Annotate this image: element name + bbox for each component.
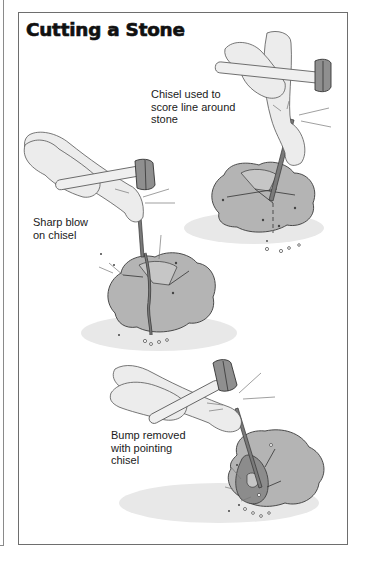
page-margin-rule (3, 0, 4, 546)
caption-line: score line around (151, 101, 235, 114)
caption-sharp-blow: Sharp blow on chisel (33, 216, 88, 241)
illustration-panel: Cutting a Stone .ln { stroke:#333; strok… (18, 12, 348, 545)
caption-bump-removed: Bump removed with pointing chisel (111, 429, 186, 467)
caption-line: chisel (111, 454, 186, 467)
caption-line: stone (151, 113, 235, 126)
figure-sharp-blow (24, 132, 237, 351)
figure-score-stone (184, 31, 331, 252)
caption-line: Bump removed (111, 429, 186, 442)
page-margin-rule-tick (0, 545, 4, 546)
caption-line: on chisel (33, 229, 88, 242)
caption-line: Chisel used to (151, 88, 235, 101)
caption-score-stone: Chisel used to score line around stone (151, 88, 235, 126)
caption-line: with pointing (111, 442, 186, 455)
caption-line: Sharp blow (33, 216, 88, 229)
